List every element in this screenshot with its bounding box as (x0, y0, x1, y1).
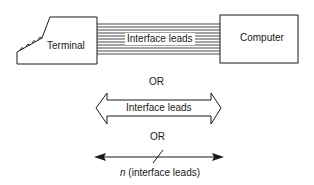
diagram-canvas (0, 0, 314, 185)
terminal-label: Terminal (47, 40, 85, 52)
ribbon-label: Interface leads (125, 33, 195, 45)
or-label-2: OR (150, 131, 165, 143)
arrow-label: Interface leads (126, 102, 192, 114)
computer-label: Computer (240, 32, 284, 44)
n-leads-label: n (interface leads) (120, 167, 200, 179)
or-label-1: OR (149, 76, 164, 88)
n-leads-text: (interface leads) (126, 167, 200, 178)
n-leads-line (94, 150, 224, 163)
